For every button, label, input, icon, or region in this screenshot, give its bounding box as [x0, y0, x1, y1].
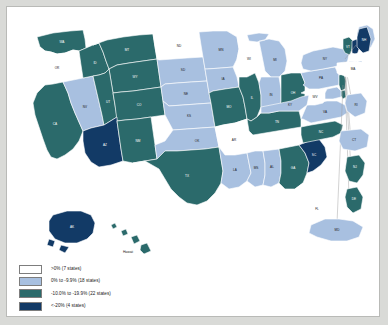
choropleth-map: WA OR CA NV ID MT WY UT CO AZ — [7, 7, 379, 265]
callout-shape-CT[interactable] — [339, 129, 369, 151]
state-VT[interactable] — [343, 37, 353, 55]
alaska-inset: AK — [47, 211, 95, 253]
legend-row-1[interactable]: 0% to -9.9% (18 states) — [19, 275, 249, 287]
state-NM[interactable] — [117, 117, 157, 163]
map-legend: >0% (7 states) 0% to -9.9% (18 states) -… — [19, 263, 249, 313]
state-NJ-main[interactable] — [339, 74, 346, 91]
state-WI[interactable] — [237, 37, 261, 77]
legend-row-3[interactable]: <-20% (4 states) — [19, 300, 249, 312]
legend-swatch-1 — [19, 277, 42, 286]
hawaii-inset-label: Hawaii — [123, 250, 133, 254]
state-MN[interactable] — [199, 31, 239, 69]
legend-row-0[interactable]: >0% (7 states) — [19, 263, 249, 275]
legend-label-1: 0% to -9.9% (18 states) — [51, 279, 100, 284]
callout-shape-MA[interactable] — [337, 61, 373, 77]
legend-label-3: <-20% (4 states) — [51, 304, 86, 309]
hawaii-inset: Hawaii — [111, 223, 151, 254]
map-panel: WA OR CA NV ID MT WY UT CO AZ — [6, 6, 380, 317]
state-MD-main[interactable] — [325, 87, 341, 99]
state-ND[interactable] — [153, 32, 203, 60]
state-MA-main[interactable] — [349, 53, 365, 61]
state-NE[interactable] — [161, 81, 211, 106]
us-map-svg: WA OR CA NV ID MT WY UT CO AZ — [7, 7, 379, 265]
legend-label-2: -10.0% to -19.9% (22 states) — [51, 292, 111, 297]
callout-shape-MD[interactable] — [309, 219, 363, 241]
legend-swatch-0 — [19, 265, 42, 274]
state-AK[interactable] — [47, 211, 95, 253]
callout-shape-RI[interactable] — [345, 93, 367, 117]
callout-shape-DE[interactable] — [345, 187, 363, 213]
state-NC[interactable] — [301, 121, 343, 143]
state-AL[interactable] — [263, 149, 281, 187]
callout-shape-NJ[interactable] — [345, 155, 365, 183]
legend-row-2[interactable]: -10.0% to -19.9% (22 states) — [19, 288, 249, 300]
legend-swatch-2 — [19, 289, 42, 298]
states-layer: WA OR CA NV ID MT WY UT CO AZ — [33, 25, 375, 229]
legend-swatch-3 — [19, 302, 42, 311]
state-DE-main[interactable] — [341, 90, 346, 99]
leader-line-nj — [345, 71, 351, 169]
state-PA[interactable] — [301, 67, 339, 89]
state-CO[interactable] — [113, 87, 165, 121]
legend-label-0: >0% (7 states) — [51, 267, 81, 272]
